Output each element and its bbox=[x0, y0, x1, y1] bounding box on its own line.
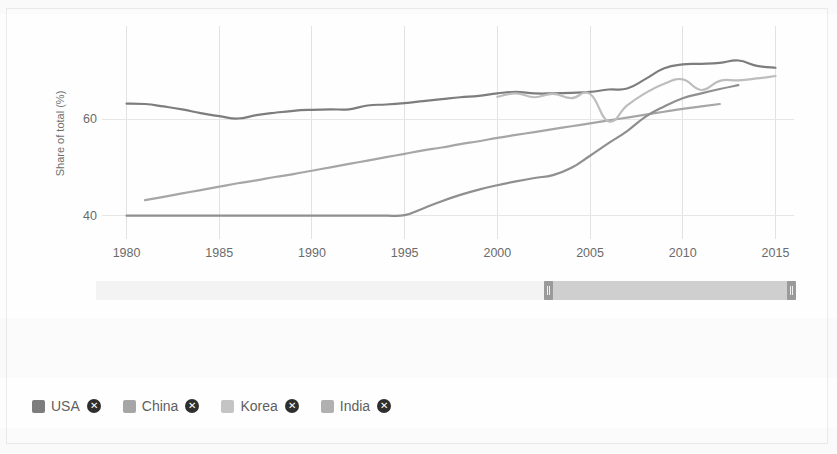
range-slider-handle-left[interactable] bbox=[544, 281, 553, 300]
legend-remove-icon[interactable]: ✕ bbox=[377, 399, 391, 413]
legend-item-label: USA bbox=[51, 398, 80, 414]
y-tick-label: 40 bbox=[83, 209, 97, 223]
plot-area[interactable]: 19801985199019952000200520102015 4060 Sh… bbox=[48, 20, 808, 275]
chart-legend: USA✕China✕Korea✕India✕ bbox=[32, 395, 391, 417]
x-tick-label: 2015 bbox=[762, 246, 790, 260]
legend-swatch-icon bbox=[221, 400, 234, 413]
y-tick-label: 60 bbox=[83, 112, 97, 126]
x-axis-tick-labels: 19801985199019952000200520102015 bbox=[113, 246, 790, 260]
legend-remove-icon[interactable]: ✕ bbox=[185, 399, 199, 413]
legend-item-usa[interactable]: USA✕ bbox=[32, 398, 101, 414]
legend-remove-icon[interactable]: ✕ bbox=[285, 399, 299, 413]
x-tick-label: 2010 bbox=[669, 246, 697, 260]
horizontal-gridlines bbox=[102, 119, 794, 216]
series-lines bbox=[127, 60, 776, 216]
x-tick-label: 1995 bbox=[391, 246, 419, 260]
x-tick-label: 1980 bbox=[113, 246, 141, 260]
legend-item-korea[interactable]: Korea✕ bbox=[221, 398, 298, 414]
legend-item-label: Korea bbox=[240, 398, 277, 414]
series-line-korea bbox=[497, 76, 775, 122]
x-tick-label: 2005 bbox=[576, 246, 604, 260]
series-line-india bbox=[127, 85, 739, 216]
chart-svg: 19801985199019952000200520102015 4060 Sh… bbox=[48, 20, 808, 275]
x-tick-label: 1985 bbox=[205, 246, 233, 260]
x-range-slider[interactable] bbox=[96, 281, 796, 300]
legend-swatch-icon bbox=[32, 400, 45, 413]
line-chart-widget: 19801985199019952000200520102015 4060 Sh… bbox=[0, 0, 837, 454]
legend-item-label: India bbox=[340, 398, 370, 414]
range-slider-handle-right[interactable] bbox=[787, 281, 796, 300]
vertical-gridlines bbox=[127, 26, 776, 239]
x-tick-label: 2000 bbox=[483, 246, 511, 260]
legend-item-label: China bbox=[142, 398, 179, 414]
legend-item-china[interactable]: China✕ bbox=[123, 398, 200, 414]
chart-screenshot: 19801985199019952000200520102015 4060 Sh… bbox=[0, 0, 837, 454]
legend-remove-icon[interactable]: ✕ bbox=[87, 399, 101, 413]
y-axis-title: Share of total (%) bbox=[54, 91, 66, 177]
legend-swatch-icon bbox=[321, 400, 334, 413]
y-axis-tick-labels: 4060 bbox=[83, 112, 97, 223]
range-slider-selection[interactable] bbox=[544, 281, 796, 300]
x-tick-label: 1990 bbox=[298, 246, 326, 260]
legend-item-india[interactable]: India✕ bbox=[321, 398, 391, 414]
legend-swatch-icon bbox=[123, 400, 136, 413]
